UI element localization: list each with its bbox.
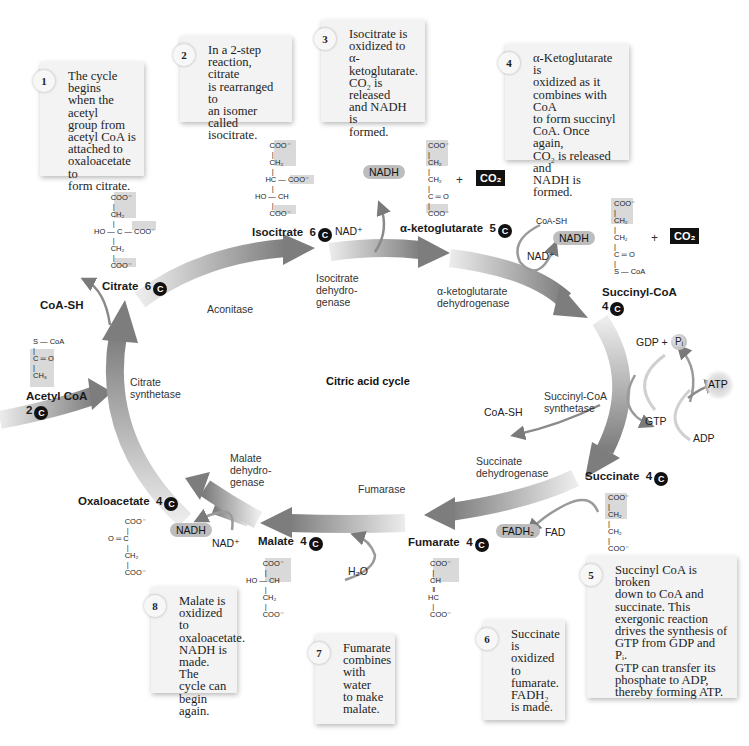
nadh-product-3: NADH — [170, 523, 212, 537]
note-step-1: 1 The cycle begins when the acetyl group… — [40, 62, 144, 176]
gtp-label: GTP — [645, 415, 667, 427]
nad-input-1: NAD⁺ — [335, 225, 363, 237]
carbon-icon: C — [164, 497, 178, 511]
succinyl-coa-structure: COO⁻ | CH₂ | CH₂ | C ═ O | S — CoA — [614, 200, 645, 277]
succinate-label: Succinate 4C — [585, 470, 668, 486]
step-number: 7 — [308, 642, 330, 664]
step-number: 8 — [144, 595, 166, 617]
step-number: 5 — [580, 564, 602, 586]
malate-label: Malate 4C — [258, 535, 323, 551]
note-step-3: 3 Isocitrate is oxidized to α- ketogluta… — [321, 20, 425, 122]
citrate-structure: COO⁻ | CH₂ | HO — C — COO⁻ | CH₂ | COO⁻ — [94, 194, 155, 271]
note-step-6: 6 Succinate is oxidized to fumarate. FAD… — [483, 620, 565, 720]
enzyme-akg-dehydrogenase: α-ketoglutarate dehydrogenase — [437, 285, 509, 309]
enzyme-succinyl-coa-synthetase: Succinyl-CoA synthetase — [544, 390, 607, 414]
enzyme-succinate-dehydrogenase: Succinate dehydrogenase — [476, 455, 548, 479]
nadh-product-1: NADH — [363, 165, 405, 179]
alpha-ketoglutarate-structure: COO⁻ | CH₂ | CH₂ | C ═ O | COO⁻ — [428, 142, 449, 219]
step-text: Malate is oxidized to oxaloacetate. NADH… — [179, 595, 229, 717]
note-step-7: 7 Fumarate combines with water to make m… — [315, 634, 395, 724]
enzyme-aconitase: Aconitase — [207, 303, 253, 315]
acetyl-coa-label: Acetyl CoA 2C — [26, 389, 87, 420]
step-text: Succinate is oxidized to fumarate. FADH₂… — [511, 628, 557, 713]
oxaloacetate-label: Oxaloacetate 4C — [78, 495, 178, 511]
water-input: H₂O — [348, 565, 368, 577]
isocitrate-label: Isocitrate 6C — [252, 226, 332, 242]
step-text: α-Ketoglutarate is oxidized as it combin… — [533, 52, 621, 198]
step-text: The cycle begins when the acetyl group f… — [68, 70, 136, 192]
co2-released-1: CO₂ — [476, 170, 505, 186]
plus-sign: + — [456, 173, 463, 187]
step-text: Succinyl CoA is broken down to CoA and s… — [615, 564, 729, 698]
carbon-icon: C — [34, 406, 48, 420]
fumarate-label: Fumarate 4C — [408, 536, 489, 552]
note-step-5: 5 Succinyl CoA is broken down to CoA and… — [587, 556, 737, 698]
cycle-title: Citric acid cycle — [326, 375, 410, 387]
note-step-8: 8 Malate is oxidized to oxaloacetate. NA… — [151, 587, 237, 693]
step-text: Fumarate combines with water to make mal… — [343, 642, 387, 715]
carbon-icon: C — [475, 538, 489, 552]
step-number: 1 — [33, 70, 55, 92]
carbon-icon: C — [610, 302, 624, 316]
carbon-icon: C — [309, 537, 323, 551]
coa-sh-input: CoA-SH — [536, 216, 567, 226]
enzyme-fumarase: Fumarase — [358, 483, 405, 495]
adp-label: ADP — [693, 432, 715, 444]
phosphate-icon: Pᵢ — [671, 334, 687, 350]
carbon-icon: C — [498, 224, 512, 238]
coa-sh-released-2: CoA-SH — [484, 406, 523, 418]
fadh2-product: FADH₂ — [496, 524, 540, 538]
enzyme-malate-dehydrogenase: Malate dehydro- genase — [230, 452, 271, 488]
step-text: In a 2-step reaction, citrate is rearran… — [208, 44, 284, 142]
enzyme-isocitrate-dehydrogenase: Isocitrate dehydro- genase — [316, 272, 359, 308]
isocitrate-structure: COO⁻ | CH₂ | HC — COO⁻ | HO — CH | COO⁻ — [255, 142, 309, 219]
malate-structure: COO⁻ | HO — CH | CH₂ | COO⁻ — [246, 560, 284, 620]
succinate-structure: COO⁻ | CH₂ | CH₂ | COO⁻ — [608, 494, 629, 554]
succinyl-coa-label: Succinyl-CoA 4C — [602, 285, 677, 316]
oxaloacetate-structure: COO⁻ | O ═ C | CH₂ | COO⁻ — [108, 518, 146, 578]
step-number: 6 — [476, 628, 498, 650]
note-step-4: 4 α-Ketoglutarate is oxidized as it comb… — [505, 44, 629, 160]
nad-input-3: NAD⁺ — [212, 537, 240, 549]
step-number: 4 — [498, 52, 520, 74]
note-step-2: 2 In a 2-step reaction, citrate is rearr… — [180, 36, 292, 122]
nadh-product-2: NADH — [553, 231, 595, 245]
plus-sign: + — [651, 231, 658, 245]
coa-sh-released: CoA-SH — [40, 299, 83, 311]
carbon-icon: C — [318, 228, 332, 242]
co2-released-2: CO₂ — [670, 228, 699, 244]
step-number: 2 — [173, 44, 195, 66]
carbon-icon: C — [153, 282, 167, 296]
citrate-label: Citrate 6C — [102, 280, 167, 296]
step-number: 3 — [314, 28, 336, 50]
fumarate-structure: COO⁻ | CH ‖ HC | COO⁻ — [428, 560, 451, 620]
carbon-icon: C — [654, 472, 668, 486]
fad-input: FAD — [545, 526, 565, 538]
nad-input-2: NAD⁺ — [527, 250, 555, 262]
enzyme-citrate-synthetase: Citrate synthetase — [130, 376, 181, 400]
atp-label: ATP — [708, 378, 728, 390]
acetyl-coa-structure: S — CoA | C ═ O | CH₃ — [33, 338, 64, 381]
alpha-ketoglutarate-label: α-ketoglutarate 5C — [400, 222, 512, 238]
gdp-label: GDP + — [636, 336, 668, 348]
step-text: Isocitrate is oxidized to α- ketoglutara… — [349, 28, 417, 138]
